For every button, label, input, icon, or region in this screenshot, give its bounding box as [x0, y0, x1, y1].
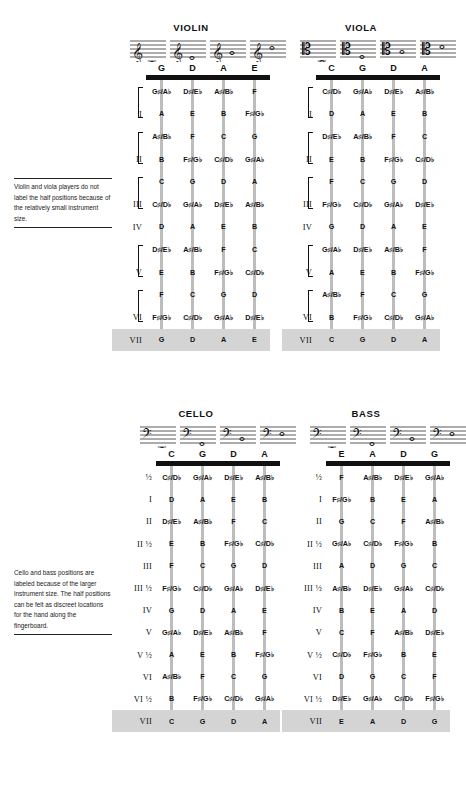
note-cell: A [208, 335, 239, 344]
note-cell: G♯/A♭ [187, 473, 218, 482]
note-cell: B [378, 268, 409, 277]
note-cell: G♯/A♭ [357, 694, 388, 703]
note-cell: E [357, 606, 388, 615]
note-cell: C♯/D♭ [347, 200, 378, 209]
open-string-row-bass: EADG [282, 449, 450, 459]
note-cell: F♯/G♭ [409, 268, 440, 277]
fingerboard-bass: ½FA♯/B♭D♯/E♭G♯/A♭IF♯/G♭BEAIIGCFA♯/B♭II ½… [282, 466, 450, 732]
note-cell: E [187, 650, 218, 659]
position-row: VIF♯/G♭C♯/D♭G♯/A♭D♯/E♭ [112, 306, 270, 329]
position-row: FCGD [282, 170, 440, 193]
note-cell: G♯/A♭ [218, 584, 249, 593]
note-cell: F♯/G♭ [388, 539, 419, 548]
note-cell: D [388, 717, 419, 726]
note-cell: A [146, 109, 177, 118]
position-row: FCGD [112, 283, 270, 306]
position-row: CGDA [112, 170, 270, 193]
position-row: VEBF♯/G♭C♯/D♭ [112, 261, 270, 284]
note-cell: F♯/G♭ [156, 584, 187, 593]
open-string-label: G [347, 63, 378, 73]
note-cell: C [378, 290, 409, 299]
note-cell: A [357, 717, 388, 726]
note-cell: D♯/E♭ [239, 313, 270, 322]
position-label: V [112, 267, 146, 277]
open-string-label: D [388, 449, 419, 459]
note-cell: D♯/E♭ [326, 694, 357, 703]
note-cell: F [177, 132, 208, 141]
position-row: III ½A♯/B♭D♯/E♭G♯/A♭C♯/D♭ [282, 577, 450, 599]
note-cell: E [347, 268, 378, 277]
note-cell: F [208, 245, 239, 254]
label-spacer [112, 63, 146, 73]
open-string-label: D [218, 449, 249, 459]
note-cell: G [146, 335, 177, 344]
note-cell: D♯/E♭ [187, 628, 218, 637]
position-label: VI [282, 672, 326, 682]
note-cell: D [239, 290, 270, 299]
staff-notation-viola-d: 𝄡 [378, 36, 418, 62]
nut-violin [112, 73, 270, 80]
position-label: IV [112, 222, 146, 232]
position-row: IF♯/G♭BEA [282, 488, 450, 510]
note-cell: F [239, 87, 270, 96]
note-cell: D [177, 335, 208, 344]
position-label: I [112, 109, 146, 119]
staff-notation-viola-a: 𝄡 [418, 36, 458, 62]
instrument-panel-viola: VIOLA𝄡𝄡𝄡𝄡CGDAC♯/D♭G♯/A♭D♯/E♭A♯/B♭IDAEBD♯… [282, 22, 440, 351]
open-string-label: A [249, 449, 280, 459]
svg-text:𝄡: 𝄡 [342, 40, 351, 59]
position-label: V ½ [282, 650, 326, 660]
note-cell: C [347, 177, 378, 186]
position-label: V [282, 627, 326, 637]
note-cell: B [357, 495, 388, 504]
note-cell: D [187, 606, 218, 615]
label-spacer [112, 73, 146, 80]
nut-bass [282, 459, 450, 466]
position-label: VI [112, 672, 156, 682]
svg-text:𝄞: 𝄞 [252, 41, 263, 63]
open-string-label: C [316, 63, 347, 73]
note-cell: A [409, 335, 440, 344]
note-rule-bottom [14, 227, 112, 228]
note-cell: C♯/D♭ [419, 584, 450, 593]
position-row: IIIC♯/D♭G♯/A♭D♯/E♭A♯/B♭ [112, 193, 270, 216]
position-row: VIIGDAE [112, 329, 270, 352]
note-cell: D♯/E♭ [249, 584, 280, 593]
position-row: D♯/E♭A♯/B♭FC [112, 238, 270, 261]
panel-title-violin: VIOLIN [112, 22, 270, 33]
staff-row-violin: 𝄞𝄞𝄞𝄞 [146, 36, 270, 62]
note-cell: D♯/E♭ [419, 628, 450, 637]
note-cell: G [357, 672, 388, 681]
note-cell: E [316, 155, 347, 164]
note-cell: G♯/A♭ [388, 584, 419, 593]
svg-text:𝄢: 𝄢 [432, 426, 442, 444]
note-rule-top [14, 178, 112, 179]
note-cell: A [326, 561, 357, 570]
note-cello-bass: Cello and bass positions are labeled bec… [14, 568, 112, 638]
position-row: IIBF♯/G♭C♯/D♭G♯/A♭ [112, 148, 270, 171]
position-row: VAEBF♯/G♭ [282, 261, 440, 284]
position-row: VIBF♯/G♭C♯/D♭G♯/A♭ [282, 306, 440, 329]
note-cell: E [326, 717, 357, 726]
note-cell: B [316, 313, 347, 322]
note-cell: F [316, 177, 347, 186]
open-string-label: G [146, 63, 177, 73]
position-label: VI [282, 312, 316, 322]
open-string-row-viola: CGDA [282, 63, 440, 73]
note-cell: G [409, 290, 440, 299]
note-cell: C♯/D♭ [187, 584, 218, 593]
note-cell: C [316, 335, 347, 344]
note-cell: G [378, 177, 409, 186]
note-cell: G♯/A♭ [146, 87, 177, 96]
position-label: ½ [282, 472, 326, 482]
note-cell: C [249, 517, 280, 526]
note-cell: G [177, 177, 208, 186]
label-spacer [282, 73, 316, 80]
note-cell: G [419, 717, 450, 726]
staff-notation-violin-a: 𝄞 [208, 36, 248, 62]
position-label: V ½ [112, 650, 156, 660]
note-cell: G [208, 290, 239, 299]
note-cell: A [177, 222, 208, 231]
position-label: II [282, 516, 326, 526]
label-spacer [282, 459, 326, 466]
